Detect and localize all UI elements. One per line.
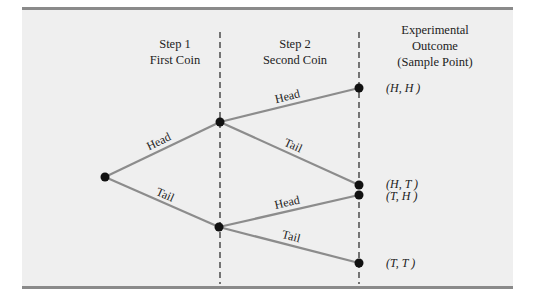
step1-branch-head: [105, 122, 220, 177]
step1-branch-tail: [105, 177, 219, 227]
step1-node-tail: [215, 223, 224, 232]
outcome-tt: (T, T ): [386, 256, 415, 271]
step1-branch-label-head: Head: [144, 130, 173, 154]
tree-diagram: HeadTailHeadTailHeadTail: [0, 0, 542, 300]
root-node: [101, 173, 110, 182]
step1-branch-label-tail: Tail: [154, 185, 177, 206]
leaf-node-head-head: [355, 84, 364, 93]
leaf-node-tail-tail: [355, 259, 364, 268]
step1-node-head: [216, 118, 225, 127]
outcome-hh: (H, H ): [386, 81, 420, 96]
leaf-node-tail-head: [355, 191, 364, 200]
leaf-node-head-tail: [355, 181, 364, 190]
outcome-th: (T, H ): [386, 189, 417, 204]
step2-branch-head-tail: [220, 122, 359, 185]
